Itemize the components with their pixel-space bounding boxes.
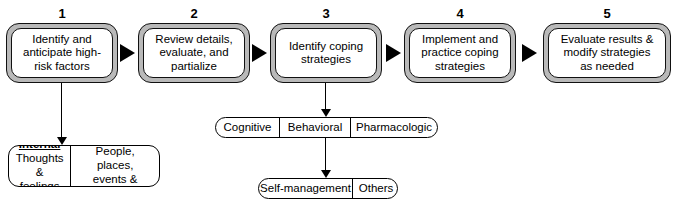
step-box-2-label: Review details, evaluate, and partialize bbox=[155, 33, 232, 73]
step-box-5[interactable]: Evaluate results & modify strategies as … bbox=[543, 23, 671, 83]
arrow-step4-to-step5 bbox=[522, 44, 537, 62]
step-number-4: 4 bbox=[404, 7, 516, 20]
coping-types-table[interactable]: Cognitive Behavioral Pharmacologic bbox=[215, 117, 438, 138]
coping-types-cell-cognitive-label: Cognitive bbox=[224, 121, 272, 135]
arrow-step3-to-step4 bbox=[386, 44, 401, 62]
triggers-cell-external-body: People, places, events & things bbox=[77, 145, 153, 187]
step-box-5-label: Evaluate results & modify strategies as … bbox=[561, 33, 654, 73]
step-number-2: 2 bbox=[138, 7, 250, 20]
step-box-1-label: Identify and anticipate high- risk facto… bbox=[23, 33, 101, 73]
step-box-5-inner: Evaluate results & modify strategies as … bbox=[548, 28, 666, 78]
coping-types-cell-behavioral-label: Behavioral bbox=[288, 121, 342, 135]
step-box-1-inner: Identify and anticipate high- risk facto… bbox=[11, 28, 113, 78]
management-cell-self-management-label: Self-management bbox=[260, 182, 351, 196]
management-table[interactable]: Self-management Others bbox=[258, 178, 398, 199]
arrowhead-coping-types-to-management bbox=[321, 170, 331, 178]
management-cell-others-label: Others bbox=[359, 182, 394, 196]
step-box-1[interactable]: Identify and anticipate high- risk facto… bbox=[6, 23, 118, 83]
step-box-2[interactable]: Review details, evaluate, and partialize bbox=[138, 23, 250, 83]
step-box-4-label: Implement and practice coping strategies bbox=[421, 33, 498, 73]
triggers-cell-internal-body: Thoughts & feelings bbox=[15, 152, 64, 187]
coping-types-cell-behavioral[interactable]: Behavioral bbox=[279, 118, 350, 137]
coping-types-cell-cognitive[interactable]: Cognitive bbox=[216, 118, 279, 137]
coping-types-cell-pharmacologic-label: Pharmacologic bbox=[356, 121, 432, 135]
connector-coping-types-to-management bbox=[325, 137, 326, 173]
step-number-5: 5 bbox=[543, 7, 671, 20]
arrow-step2-to-step3 bbox=[252, 44, 267, 62]
step-number-3: 3 bbox=[270, 7, 382, 20]
step-number-1: 1 bbox=[6, 7, 118, 20]
step-box-4[interactable]: Implement and practice coping strategies bbox=[404, 23, 516, 83]
connector-step3-to-coping-types bbox=[325, 83, 326, 111]
triggers-table[interactable]: Internal Thoughts & feelings External Pe… bbox=[8, 145, 160, 187]
step-box-2-inner: Review details, evaluate, and partialize bbox=[143, 28, 245, 78]
step-box-3[interactable]: Identify coping strategies bbox=[270, 23, 382, 83]
step-box-3-label: Identify coping strategies bbox=[289, 40, 363, 67]
management-cell-self-management[interactable]: Self-management bbox=[259, 179, 352, 198]
management-cell-others[interactable]: Others bbox=[352, 179, 398, 198]
coping-types-cell-pharmacologic[interactable]: Pharmacologic bbox=[350, 118, 437, 137]
connector-step1-to-triggers bbox=[61, 83, 62, 139]
arrowhead-step1-to-triggers bbox=[57, 137, 67, 145]
arrow-step1-to-step2 bbox=[120, 44, 135, 62]
step-box-3-inner: Identify coping strategies bbox=[275, 28, 377, 78]
triggers-cell-internal[interactable]: Internal Thoughts & feelings bbox=[9, 146, 70, 186]
arrowhead-step3-to-coping-types bbox=[321, 109, 331, 117]
step-box-4-inner: Implement and practice coping strategies bbox=[409, 28, 511, 78]
flowchart-canvas: 1 2 3 4 5 Identify and anticipate high- … bbox=[0, 0, 681, 210]
triggers-cell-internal-header: Internal bbox=[19, 145, 61, 152]
triggers-cell-external[interactable]: External People, places, events & things bbox=[70, 146, 159, 186]
